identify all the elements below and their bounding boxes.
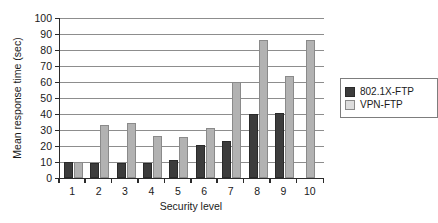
bar-group: [245, 18, 271, 178]
bar: [64, 162, 73, 178]
x-axis-cell: 6: [191, 179, 217, 199]
bar-group: [60, 18, 86, 178]
x-axis-tick: [137, 179, 139, 183]
x-axis-tick: [243, 179, 245, 183]
bar-group: [113, 18, 139, 178]
legend-item-1: VPN-FTP: [345, 99, 433, 110]
bar: [259, 40, 268, 178]
x-axis-cell: 3: [112, 179, 138, 199]
bar-group: [298, 18, 324, 178]
x-axis-labels: 12345678910: [59, 179, 323, 199]
x-axis-tick: [84, 179, 86, 183]
x-axis-tick-label: 2: [85, 185, 111, 197]
x-axis-title: Security level: [58, 200, 324, 212]
x-axis-cell: 10: [297, 179, 323, 199]
x-axis-cell: 2: [85, 179, 111, 199]
bar-group: [139, 18, 165, 178]
bar: [285, 76, 294, 178]
bar-group: [86, 18, 112, 178]
x-axis-tick: [296, 179, 298, 183]
legend-item-0: 802.1X-FTP: [345, 86, 433, 97]
bar: [169, 160, 178, 178]
x-axis-cell: 9: [270, 179, 296, 199]
x-axis-cell: 7: [217, 179, 243, 199]
bar-group: [271, 18, 297, 178]
y-axis-tick-label: 70: [12, 61, 52, 72]
x-axis-tick-label: 9: [270, 185, 296, 197]
bar: [222, 141, 231, 178]
bar: [206, 128, 215, 178]
x-axis-tick-label: 6: [191, 185, 217, 197]
bar: [127, 123, 136, 178]
x-axis-tick-label: 1: [59, 185, 85, 197]
x-axis-end-tick: [323, 179, 325, 183]
bar: [117, 163, 126, 178]
bar: [90, 163, 99, 178]
x-axis-cell: 8: [244, 179, 270, 199]
legend-swatch-icon: [345, 100, 355, 110]
x-axis-tick-label: 5: [165, 185, 191, 197]
bar: [196, 145, 205, 178]
legend-label: 802.1X-FTP: [360, 86, 414, 97]
bar-group: [166, 18, 192, 178]
bar: [306, 40, 315, 178]
x-axis-tick-label: 4: [138, 185, 164, 197]
y-axis-tick-label: 40: [12, 109, 52, 120]
x-axis-tick-label: 3: [112, 185, 138, 197]
bar-group: [218, 18, 244, 178]
bar: [143, 163, 152, 178]
y-axis-tick-label: 20: [12, 141, 52, 152]
y-axis-tick-label: 100: [12, 13, 52, 24]
bar-groups: [60, 18, 324, 178]
legend-swatch-icon: [345, 87, 355, 97]
x-axis-tick-label: 10: [297, 185, 323, 197]
bar: [153, 136, 162, 178]
x-axis-tick: [190, 179, 192, 183]
legend-label: VPN-FTP: [360, 99, 403, 110]
y-axis-tick-label: 50: [12, 93, 52, 104]
x-axis-cell: 1: [59, 179, 85, 199]
bar: [100, 125, 109, 178]
x-axis-tick: [269, 179, 271, 183]
bar: [232, 82, 241, 178]
x-axis-tick-label: 8: [244, 185, 270, 197]
bar: [275, 113, 284, 178]
x-axis-tick: [58, 179, 60, 183]
bar: [74, 162, 83, 178]
y-axis-tick-label: 80: [12, 45, 52, 56]
y-axis-tick-label: 90: [12, 29, 52, 40]
plot-area: 0102030405060708090100: [59, 18, 324, 179]
y-axis-tick-label: 0: [12, 173, 52, 184]
bar-group: [192, 18, 218, 178]
x-axis-cell: 5: [165, 179, 191, 199]
x-axis-tick: [111, 179, 113, 183]
x-axis-cell: 4: [138, 179, 164, 199]
bar: [179, 137, 188, 178]
x-axis-tick-label: 7: [217, 185, 243, 197]
y-axis-tick-label: 60: [12, 77, 52, 88]
y-axis-tick-label: 10: [12, 157, 52, 168]
legend: 802.1X-FTP VPN-FTP: [340, 78, 438, 118]
x-axis-tick: [164, 179, 166, 183]
x-axis-tick: [216, 179, 218, 183]
bar: [249, 114, 258, 178]
y-axis-tick-label: 30: [12, 125, 52, 136]
